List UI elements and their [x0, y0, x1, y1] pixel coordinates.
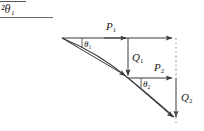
p2-label-text: P [154, 61, 161, 73]
theta1-label: θ1 [84, 40, 91, 49]
p1-label: P1 [106, 21, 116, 32]
q1-label-text: Q [132, 51, 140, 63]
q1-label-subscript: 1 [140, 57, 143, 64]
cropped-equation-fragment: ²θ₁ [0, 0, 56, 22]
fraction-rule-bottom [0, 17, 53, 18]
p2-label-subscript: 2 [161, 67, 164, 74]
theta2-label-subscript: 2 [147, 84, 150, 90]
q1-label: Q1 [132, 52, 143, 63]
theta1-label-subscript: 1 [88, 44, 91, 50]
p2-label: P2 [154, 62, 164, 73]
resultant-vector-1 [62, 38, 126, 76]
resultant-vector-2 [128, 78, 173, 117]
vector-decomposition-figure: ²θ₁ P1 θ1 Q1 P2 θ2 Q2 [0, 0, 204, 131]
cropped-theta-label: ²θ₁ [1, 3, 15, 15]
q2-label: Q2 [181, 92, 192, 103]
q2-label-text: Q [181, 91, 189, 103]
p1-label-text: P [106, 20, 113, 32]
theta2-label: θ2 [143, 80, 150, 89]
q2-label-subscript: 2 [189, 97, 192, 104]
p1-label-subscript: 1 [113, 26, 116, 33]
